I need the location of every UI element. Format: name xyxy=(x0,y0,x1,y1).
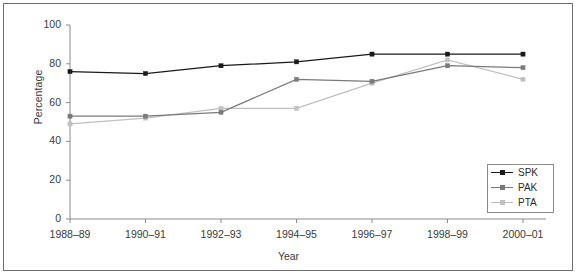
data-point-pta-2 xyxy=(219,106,223,110)
legend-label-spk: SPK xyxy=(513,168,538,178)
data-point-spk-2 xyxy=(219,64,223,68)
series-line-pta xyxy=(70,60,523,124)
data-point-pak-3 xyxy=(294,77,298,81)
legend-item-pak: PAK xyxy=(488,180,553,195)
plot-area xyxy=(0,0,577,276)
legend-label-pak: PAK xyxy=(513,183,537,193)
data-point-pta-6 xyxy=(521,77,525,81)
data-point-pak-2 xyxy=(219,110,223,114)
data-point-pta-5 xyxy=(445,58,449,62)
data-point-pak-0 xyxy=(68,114,72,118)
data-point-pta-0 xyxy=(68,122,72,126)
data-point-pta-3 xyxy=(294,106,298,110)
data-point-spk-6 xyxy=(521,52,525,56)
legend-item-spk: SPK xyxy=(488,165,553,180)
data-point-pak-1 xyxy=(143,114,147,118)
data-point-spk-0 xyxy=(68,69,72,73)
legend-swatch-spk xyxy=(491,168,513,178)
data-point-pak-5 xyxy=(445,64,449,68)
chart-figure: Percentage Year 020406080100 1988–891990… xyxy=(0,0,577,276)
legend-label-pta: PTA xyxy=(513,198,537,208)
chart-legend: SPK PAK PTA xyxy=(487,164,554,213)
legend-item-pta: PTA xyxy=(488,195,553,210)
data-point-spk-4 xyxy=(370,52,374,56)
data-point-pak-6 xyxy=(521,66,525,70)
series-group xyxy=(68,52,525,126)
legend-swatch-pak xyxy=(491,183,513,193)
data-point-spk-3 xyxy=(294,60,298,64)
data-point-spk-5 xyxy=(445,52,449,56)
data-point-spk-1 xyxy=(143,71,147,75)
data-point-pak-4 xyxy=(370,79,374,83)
legend-swatch-pta xyxy=(491,198,513,208)
